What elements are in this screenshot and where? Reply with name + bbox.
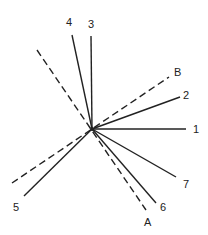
- solid-line-3: [91, 36, 92, 129]
- label-b: B: [174, 66, 181, 78]
- solid-line-7: [92, 129, 176, 177]
- diagram-svg: 1 2 3 4 5 6 7 A B: [0, 0, 208, 235]
- label-1: 1: [193, 123, 199, 135]
- line-diagram: 1 2 3 4 5 6 7 A B: [0, 0, 208, 235]
- solid-line-2: [92, 97, 180, 129]
- label-2: 2: [183, 89, 189, 101]
- solid-line-6: [92, 129, 156, 203]
- label-4: 4: [66, 16, 72, 28]
- label-a: A: [144, 216, 152, 228]
- label-6: 6: [160, 201, 166, 213]
- label-3: 3: [88, 18, 94, 30]
- label-7: 7: [183, 178, 189, 190]
- label-5: 5: [13, 201, 19, 213]
- solid-line-5: [24, 129, 92, 196]
- center-point: [90, 127, 94, 131]
